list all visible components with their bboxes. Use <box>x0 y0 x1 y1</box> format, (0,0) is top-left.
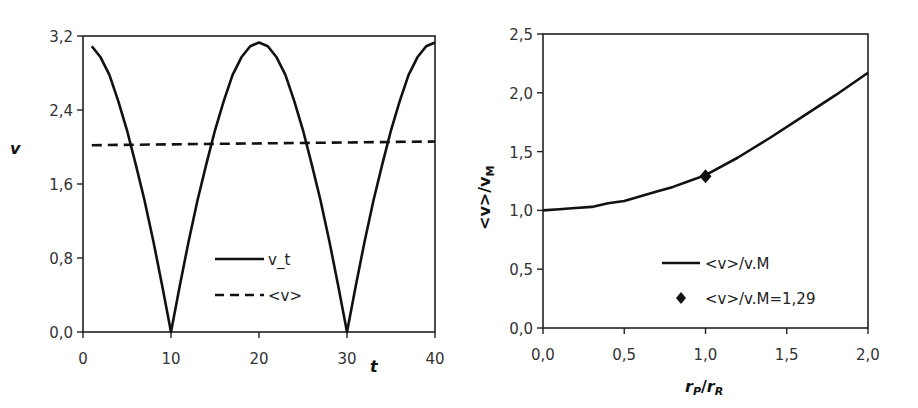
y-tick-label: 1,5 <box>509 144 533 162</box>
left-chart: 3,22,41,60,80,0 010203040 v t v_t <v> <box>10 28 445 376</box>
y-tick-label: 0,8 <box>49 250 73 268</box>
legend-label-v-t: v_t <box>268 251 290 270</box>
legend-label-ratio: <v>/v.M <box>705 255 770 273</box>
x-tick-label: 0 <box>78 350 88 368</box>
y-tick-label: 3,2 <box>49 28 73 46</box>
figure: 3,22,41,60,80,0 010203040 v t v_t <v> 2,… <box>0 0 918 408</box>
left-y-axis-title: v <box>10 139 21 158</box>
y-tick-label: 0,0 <box>509 320 533 338</box>
x-tick-label: 10 <box>161 350 180 368</box>
left-x-axis: 010203040 <box>78 332 444 368</box>
series-mean-v-dashed-line <box>92 142 435 146</box>
x-tick-label: 30 <box>337 350 356 368</box>
left-y-axis: 3,22,41,60,80,0 <box>49 28 83 342</box>
diamond-marker-icon <box>676 292 686 304</box>
y-tick-label: 1,6 <box>49 176 73 194</box>
x-tick-label: 1,0 <box>694 346 718 364</box>
right-y-axis-title: <v>/vM <box>475 166 497 230</box>
right-x-axis-title: rP/rR <box>685 377 723 398</box>
y-tick-label: 1,0 <box>509 202 533 220</box>
y-tick-label: 2,5 <box>509 26 533 44</box>
left-plot-frame <box>83 36 435 332</box>
left-x-axis-title: t <box>370 357 379 376</box>
legend-label-ratio-point: <v>/v.M=1,29 <box>705 290 815 308</box>
x-tick-label: 20 <box>249 350 268 368</box>
right-y-axis: 2,52,01,51,00,50,0 <box>509 26 543 338</box>
x-tick-label: 0,0 <box>531 346 555 364</box>
y-tick-label: 0,0 <box>49 324 73 342</box>
y-tick-label: 0,5 <box>509 261 533 279</box>
y-tick-label: 2,4 <box>49 102 73 120</box>
right-legend: <v>/v.M <v>/v.M=1,29 <box>662 255 815 308</box>
series-v-t-line <box>92 43 435 333</box>
x-tick-label: 40 <box>425 350 444 368</box>
x-tick-label: 2,0 <box>856 346 880 364</box>
right-x-axis: 0,00,51,01,52,0 <box>531 328 880 364</box>
x-tick-label: 1,5 <box>775 346 799 364</box>
x-tick-label: 0,5 <box>612 346 636 364</box>
right-chart: 2,52,01,51,00,50,0 0,00,51,01,52,0 <v>/v… <box>475 26 880 398</box>
left-legend: v_t <v> <box>215 251 302 305</box>
legend-label-mean-v: <v> <box>268 287 302 305</box>
y-tick-label: 2,0 <box>509 85 533 103</box>
series-ratio-line <box>543 73 868 211</box>
